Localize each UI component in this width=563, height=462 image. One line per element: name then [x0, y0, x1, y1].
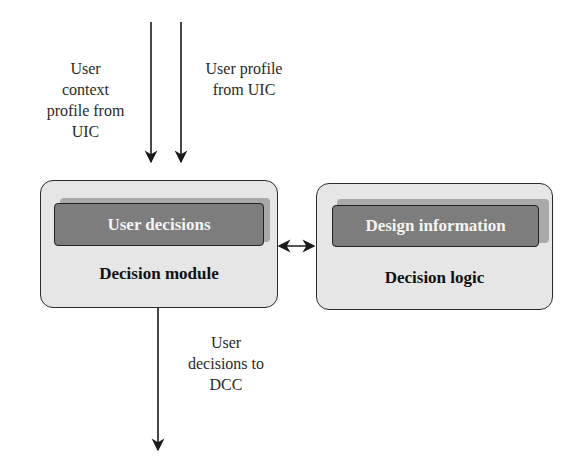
user-decisions-label: User decisions — [107, 215, 210, 235]
design-information-label: Design information — [365, 216, 505, 236]
label-line: DCC — [176, 374, 276, 395]
label-line: decisions to — [176, 353, 276, 374]
label-line: UIC — [28, 121, 143, 142]
user-decisions-block: User decisions — [54, 203, 264, 246]
decision-module-title: Decision module — [41, 264, 277, 284]
label-line: profile from — [28, 100, 143, 121]
input-label-user-profile: User profile from UIC — [190, 58, 298, 100]
output-label-user-decisions: User decisions to DCC — [176, 332, 276, 395]
diagram-canvas: User context profile from UIC User profi… — [0, 0, 563, 462]
decision-logic-box: Design information Decision logic — [316, 183, 553, 310]
label-line: User profile — [190, 58, 298, 79]
decision-logic-title: Decision logic — [317, 268, 552, 288]
label-line: from UIC — [190, 79, 298, 100]
decision-module-box: User decisions Decision module — [40, 180, 278, 308]
design-information-block: Design information — [332, 205, 539, 247]
label-line: context — [28, 79, 143, 100]
label-line: User — [28, 58, 143, 79]
label-line: User — [176, 332, 276, 353]
input-label-user-context-profile: User context profile from UIC — [28, 58, 143, 142]
